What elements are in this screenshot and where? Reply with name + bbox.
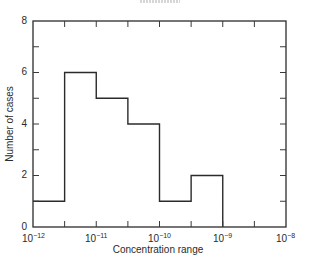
y-tick-6: 6: [21, 66, 27, 77]
histogram-steps: [33, 73, 223, 228]
svg-text:10−10: 10−10: [148, 232, 171, 244]
svg-text:10−8: 10−8: [276, 232, 295, 244]
y-tick-2: 2: [21, 169, 27, 180]
y-tick-8: 8: [21, 15, 27, 26]
x-tick-1e-10: 10−10: [148, 232, 171, 244]
x-tick-1e-12: 10−12: [22, 232, 45, 244]
x-tick-1e-8: 10−8: [276, 232, 295, 244]
y-tick-0: 0: [21, 221, 27, 232]
y-tick-4: 4: [21, 118, 27, 129]
svg-text:10−11: 10−11: [85, 232, 108, 244]
y-axis-title: Number of cases: [4, 86, 15, 162]
x-tick-1e-9: 10−9: [213, 232, 232, 244]
histogram-chart: 0 2 4 6 8 Number of cases 10−12 10−11 10…: [0, 0, 309, 261]
x-axis-title: Concentration range: [113, 244, 204, 255]
x-tick-1e-11: 10−11: [85, 232, 108, 244]
svg-text:10−9: 10−9: [213, 232, 232, 244]
svg-text:10−12: 10−12: [22, 232, 45, 244]
